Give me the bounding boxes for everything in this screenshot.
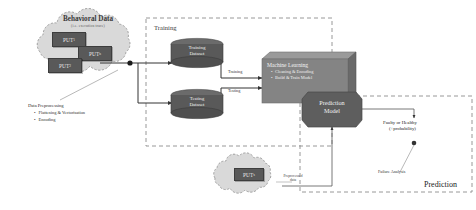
failure-analysis-leader bbox=[400, 145, 414, 172]
preprocessing-title: Data Preprocessing bbox=[28, 103, 64, 108]
diagram-canvas: Behavioral Data (i.e. execution trace) P… bbox=[0, 0, 476, 210]
junction-to-testing-dataset bbox=[138, 63, 172, 103]
machine-learning-title: Machine Learning bbox=[267, 62, 353, 68]
behavioral-data-subtitle: (i.e. execution trace) bbox=[52, 24, 124, 28]
testing-dataset-line1: Testing bbox=[190, 96, 205, 101]
preprocessed-note-line2: data bbox=[276, 178, 310, 182]
machine-learning-box[interactable]: Machine Learning Cleaning & Encoding Bui… bbox=[263, 60, 349, 78]
failure-analysis-label: Failure Analysis bbox=[378, 170, 405, 175]
put-box-1-subscript: 1 bbox=[73, 38, 75, 42]
preprocessing-bullet-0: Flattening & Vectorisation bbox=[34, 110, 85, 115]
machine-learning-bullet-0: Cleaning & Encoding bbox=[271, 69, 353, 74]
junction-dot bbox=[127, 60, 132, 65]
prediction-panel-label: Prediction bbox=[424, 180, 457, 189]
put-box-3[interactable]: PUT2 bbox=[48, 58, 82, 73]
put-box-x-subscript: x bbox=[253, 173, 255, 177]
machine-learning-bullet-1: Build & Train Model bbox=[271, 75, 353, 80]
preprocessing-bullet-1: Encoding bbox=[34, 117, 55, 122]
preprocessed-data-note: Preprocessed data bbox=[276, 174, 310, 183]
edge-label-testing: Testing bbox=[228, 89, 240, 94]
edge-label-training: Training bbox=[228, 70, 242, 75]
preprocessing-leader-line bbox=[60, 70, 118, 100]
prediction-output-line2: (+probability) bbox=[389, 126, 417, 132]
put-box-1-label: PUT bbox=[63, 37, 73, 43]
prediction-model-line2: Model bbox=[324, 107, 340, 114]
model-to-output-edge bbox=[362, 109, 414, 118]
put-box-x-label: PUT bbox=[243, 172, 253, 178]
training-dataset-line2: Dataset bbox=[190, 51, 205, 56]
put-box-1[interactable]: PUT1 bbox=[52, 32, 86, 47]
failure-analysis-dot bbox=[412, 141, 417, 146]
training-panel-label: Training bbox=[154, 24, 176, 32]
behavioral-data-title: Behavioral Data bbox=[52, 15, 124, 23]
put-box-2[interactable]: PUTn bbox=[78, 46, 112, 61]
put-box-x[interactable]: PUTx bbox=[234, 168, 264, 181]
put-box-2-label: PUT bbox=[89, 51, 99, 57]
put-box-3-subscript: 2 bbox=[69, 64, 71, 68]
prediction-output: Faulty or Healthy (+probability) bbox=[383, 120, 417, 132]
training-dataset-line1: Training bbox=[188, 45, 205, 50]
put-box-3-label: PUT bbox=[59, 63, 69, 69]
put-box-2-subscript: n bbox=[99, 52, 101, 56]
prediction-model-line1: Prediction bbox=[319, 99, 344, 106]
testing-dataset-line2: Dataset bbox=[190, 102, 205, 107]
